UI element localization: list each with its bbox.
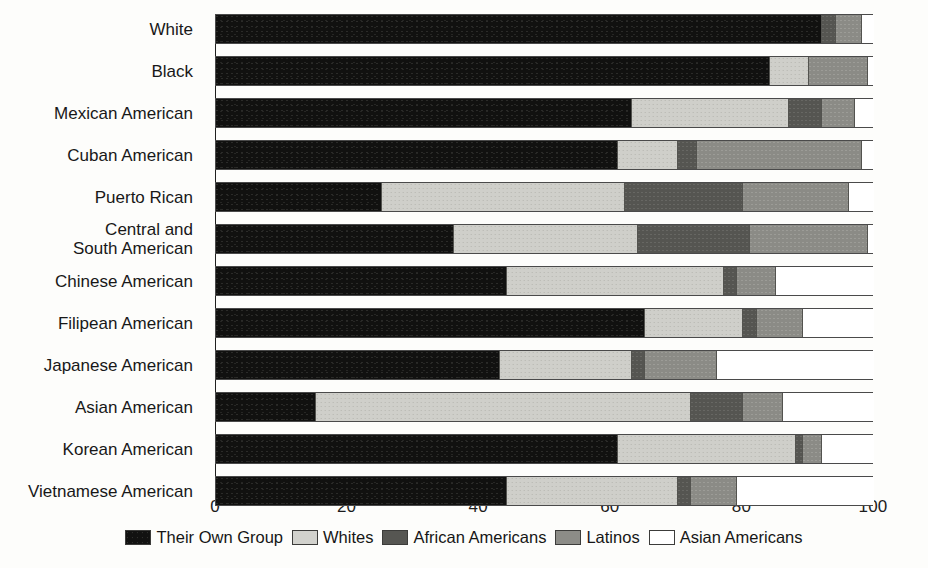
stacked-bar[interactable]	[215, 14, 873, 44]
bar-segment-asian[interactable]	[861, 141, 874, 169]
category-label: Asian American	[0, 398, 205, 417]
legend-label: Whites	[323, 529, 373, 546]
legend-label: Latinos	[586, 529, 639, 546]
bar-segment-own[interactable]	[216, 225, 453, 253]
bar-segment-african[interactable]	[677, 477, 690, 505]
category-label: Korean American	[0, 440, 205, 459]
bar-segment-asian[interactable]	[867, 57, 874, 85]
bar-segment-asian[interactable]	[775, 267, 874, 295]
legend-swatch-own-icon	[125, 530, 151, 545]
bar-segment-asian[interactable]	[854, 99, 874, 127]
bar-segment-african[interactable]	[631, 351, 644, 379]
bar-segment-own[interactable]	[216, 267, 506, 295]
bar-segment-whites[interactable]	[769, 57, 808, 85]
bar-segment-latinos[interactable]	[808, 57, 867, 85]
bar-segment-own[interactable]	[216, 351, 499, 379]
bar-segment-own[interactable]	[216, 435, 617, 463]
bar-segment-african[interactable]	[742, 309, 755, 337]
bar-segment-latinos[interactable]	[749, 225, 867, 253]
legend-item-latinos[interactable]: Latinos	[555, 529, 639, 546]
legend-item-asian[interactable]: Asian Americans	[649, 529, 803, 546]
bar-segment-whites[interactable]	[499, 351, 631, 379]
bar-segment-own[interactable]	[216, 477, 506, 505]
category-label: White	[0, 20, 205, 39]
bar-segment-latinos[interactable]	[696, 141, 861, 169]
bar-segment-latinos[interactable]	[821, 99, 854, 127]
bar-segment-latinos[interactable]	[802, 435, 822, 463]
bar-segment-whites[interactable]	[617, 141, 676, 169]
stacked-bar[interactable]	[215, 308, 873, 338]
legend-label: African Americans	[413, 529, 546, 546]
bar-segment-whites[interactable]	[506, 267, 723, 295]
bar-segment-asian[interactable]	[821, 435, 874, 463]
bar-segment-african[interactable]	[637, 225, 749, 253]
category-label: Mexican American	[0, 104, 205, 123]
bar-segment-asian[interactable]	[861, 15, 874, 43]
bar-segment-african[interactable]	[723, 267, 736, 295]
bar-segment-whites[interactable]	[631, 99, 789, 127]
stacked-bar[interactable]	[215, 266, 873, 296]
bar-segment-asian[interactable]	[848, 183, 874, 211]
bar-segment-latinos[interactable]	[835, 15, 861, 43]
bar-segment-own[interactable]	[216, 393, 315, 421]
bar-segment-asian[interactable]	[867, 225, 874, 253]
bar-segment-latinos[interactable]	[756, 309, 802, 337]
legend-label: Asian Americans	[680, 529, 803, 546]
bar-segment-whites[interactable]	[506, 477, 677, 505]
stacked-bar[interactable]	[215, 350, 873, 380]
bar-segment-own[interactable]	[216, 141, 617, 169]
stacked-bar[interactable]	[215, 140, 873, 170]
category-label: Puerto Rican	[0, 188, 205, 207]
bar-segment-latinos[interactable]	[736, 267, 775, 295]
category-label: Black	[0, 62, 205, 81]
bar-segment-african[interactable]	[677, 141, 697, 169]
bar-segment-african[interactable]	[821, 15, 834, 43]
stacked-bar[interactable]	[215, 56, 873, 86]
category-label: Chinese American	[0, 272, 205, 291]
bar-segment-whites[interactable]	[315, 393, 690, 421]
bar-segment-asian[interactable]	[782, 393, 874, 421]
legend-item-whites[interactable]: Whites	[292, 529, 373, 546]
bar-segment-own[interactable]	[216, 99, 631, 127]
bar-segment-whites[interactable]	[453, 225, 637, 253]
stacked-bar[interactable]	[215, 182, 873, 212]
chart-legend: Their Own GroupWhitesAfrican AmericansLa…	[0, 529, 928, 546]
bar-segment-whites[interactable]	[617, 435, 795, 463]
category-label: Vietnamese American	[0, 482, 205, 501]
stacked-bar-chart: 020406080100 WhiteBlackMexican AmericanC…	[0, 0, 928, 568]
stacked-bar[interactable]	[215, 98, 873, 128]
bar-segment-african[interactable]	[795, 435, 802, 463]
stacked-bar[interactable]	[215, 476, 873, 506]
stacked-bar[interactable]	[215, 392, 873, 422]
legend-swatch-african-icon	[382, 530, 408, 545]
legend-item-own[interactable]: Their Own Group	[125, 529, 283, 546]
legend-swatch-latinos-icon	[555, 530, 581, 545]
bar-segment-african[interactable]	[690, 393, 743, 421]
legend-swatch-asian-icon	[649, 530, 675, 545]
bar-segment-latinos[interactable]	[690, 477, 736, 505]
bar-segment-latinos[interactable]	[742, 183, 847, 211]
category-label: Japanese American	[0, 356, 205, 375]
bar-segment-latinos[interactable]	[742, 393, 781, 421]
category-label: Cuban American	[0, 146, 205, 165]
stacked-bar[interactable]	[215, 434, 873, 464]
bar-segment-whites[interactable]	[381, 183, 624, 211]
legend-swatch-whites-icon	[292, 530, 318, 545]
bar-segment-own[interactable]	[216, 309, 644, 337]
bar-segment-own[interactable]	[216, 15, 821, 43]
legend-item-african[interactable]: African Americans	[382, 529, 546, 546]
legend-label: Their Own Group	[156, 529, 283, 546]
bar-segment-asian[interactable]	[802, 309, 874, 337]
bar-segment-own[interactable]	[216, 57, 769, 85]
bar-segment-latinos[interactable]	[644, 351, 716, 379]
stacked-bar[interactable]	[215, 224, 873, 254]
bar-segment-own[interactable]	[216, 183, 381, 211]
bar-segment-whites[interactable]	[644, 309, 743, 337]
category-label: Central and South American	[0, 220, 205, 258]
category-label: Filipean American	[0, 314, 205, 333]
bar-segment-asian[interactable]	[716, 351, 874, 379]
bar-segment-african[interactable]	[624, 183, 742, 211]
bar-segment-asian[interactable]	[736, 477, 874, 505]
bar-segment-african[interactable]	[788, 99, 821, 127]
